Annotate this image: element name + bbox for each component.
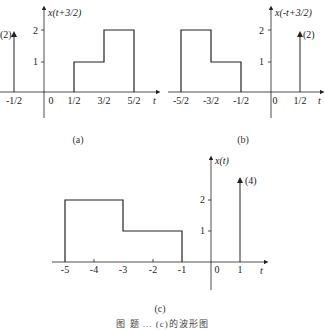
panel-c bbox=[52, 158, 266, 290]
x-axis-label: t bbox=[153, 95, 156, 106]
y-tick-2: 2 bbox=[259, 25, 264, 36]
x-tick: 0 bbox=[273, 95, 278, 106]
y-axis-label: x(t) bbox=[214, 155, 230, 167]
figure-caption: 图 题 ... (c)的波形图 bbox=[0, 317, 325, 330]
panel-label-a: (a) bbox=[72, 134, 83, 146]
panel-label-c: (c) bbox=[154, 303, 165, 315]
x-tick: -5 bbox=[61, 264, 69, 275]
x-tick: 0 bbox=[49, 95, 54, 106]
x-tick: -3/2 bbox=[203, 95, 219, 106]
x-axis-label: t bbox=[318, 95, 321, 106]
x-tick: -2 bbox=[149, 264, 157, 275]
impulse-weight: (4) bbox=[245, 175, 257, 187]
y-tick-2: 2 bbox=[33, 25, 38, 36]
x-tick: 3/2 bbox=[98, 95, 111, 106]
x-tick: -1 bbox=[178, 264, 186, 275]
x-tick: -4 bbox=[90, 264, 98, 275]
x-tick: -1/2 bbox=[6, 95, 22, 106]
x-tick: 1/2 bbox=[68, 95, 81, 106]
x-tick: 1 bbox=[238, 264, 243, 275]
impulse-weight: (2) bbox=[0, 29, 12, 41]
y-tick-1: 1 bbox=[33, 56, 38, 67]
waveform bbox=[181, 30, 241, 92]
y-axis-label: x(t+3/2) bbox=[47, 7, 82, 19]
waveform bbox=[74, 30, 134, 92]
waveform bbox=[65, 200, 182, 262]
y-axis-label: x(-t+3/2) bbox=[274, 7, 312, 19]
x-axis-label: t bbox=[260, 265, 263, 276]
x-tick: -5/2 bbox=[173, 95, 189, 106]
x-tick: 1/2 bbox=[294, 95, 307, 106]
y-tick-1: 1 bbox=[200, 225, 205, 236]
x-tick: 0 bbox=[215, 264, 220, 275]
impulse-weight: (2) bbox=[303, 29, 315, 41]
panel-label-b: (b) bbox=[237, 134, 249, 146]
y-tick-2: 2 bbox=[200, 194, 205, 205]
x-tick: -3 bbox=[119, 264, 127, 275]
y-tick-1: 1 bbox=[259, 56, 264, 67]
x-tick: -1/2 bbox=[233, 95, 249, 106]
x-tick: 5/2 bbox=[128, 95, 141, 106]
